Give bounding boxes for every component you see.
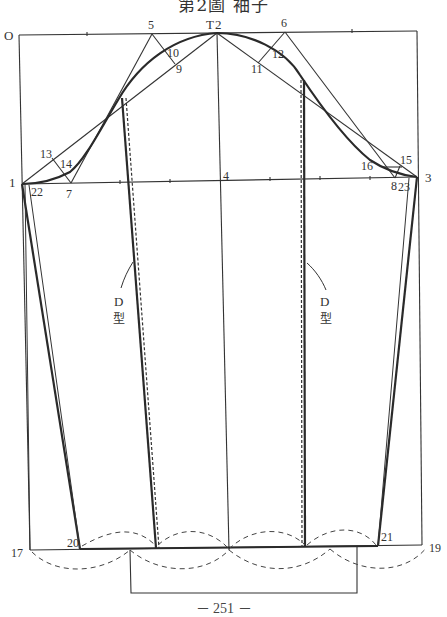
cuff-curve-6 <box>130 550 229 569</box>
center-line <box>217 33 229 550</box>
cuff-curve-7 <box>229 549 330 569</box>
back-d-line <box>304 80 305 547</box>
cuff-curve-5 <box>32 550 130 569</box>
label-11: 11 <box>251 62 263 76</box>
label-9: 9 <box>176 62 182 76</box>
label-left-d-letter: D <box>114 294 123 309</box>
back-d-dashed <box>301 80 302 547</box>
label-19: 19 <box>429 541 441 555</box>
cuff-curve-8 <box>330 547 427 568</box>
front-d-line <box>122 98 156 548</box>
label-17: 17 <box>11 546 23 560</box>
label-4: 4 <box>223 169 229 183</box>
front-diagonal-line <box>22 33 217 184</box>
cuff-curve-1 <box>82 532 155 546</box>
label-23: 23 <box>398 180 410 194</box>
label-20: 20 <box>67 536 79 550</box>
right-frame-line <box>417 31 422 545</box>
label-3: 3 <box>425 170 432 185</box>
label-6: 6 <box>281 16 287 30</box>
guide-line-5-7 <box>71 34 152 183</box>
label-15: 15 <box>400 153 412 167</box>
label-10: 10 <box>167 46 179 60</box>
label-13: 13 <box>40 147 52 161</box>
page-number: － 251 － <box>0 597 447 617</box>
label-7: 7 <box>66 187 72 201</box>
cuff-curve-2 <box>158 532 229 549</box>
label-12: 12 <box>272 47 284 61</box>
front-d-dashed <box>126 98 159 548</box>
left-frame-line <box>19 35 30 550</box>
label-16: 16 <box>361 159 373 173</box>
label-5: 5 <box>148 18 154 32</box>
underarm-guide-left-2 <box>29 185 80 549</box>
front-underarm-seam <box>22 184 80 549</box>
label-O: O <box>4 28 13 43</box>
label-22: 22 <box>31 185 43 199</box>
label-2: 2 <box>215 17 222 32</box>
underarm-guide-right <box>378 178 409 546</box>
biceps-line <box>22 177 417 184</box>
leader-left-d <box>121 262 133 288</box>
leader-right-d <box>307 263 326 290</box>
label-T: T <box>206 17 214 32</box>
back-underarm-seam <box>378 177 417 546</box>
label-8: 8 <box>391 179 397 193</box>
label-left-d-char: 型 <box>113 312 125 326</box>
back-diagonal-line <box>217 33 417 177</box>
label-right-d-letter: D <box>320 294 329 309</box>
label-1: 1 <box>9 175 16 190</box>
label-21: 21 <box>381 530 393 544</box>
label-14: 14 <box>60 157 72 171</box>
cuff-curve-4 <box>307 530 376 545</box>
label-right-d-char: 型 <box>320 312 332 326</box>
